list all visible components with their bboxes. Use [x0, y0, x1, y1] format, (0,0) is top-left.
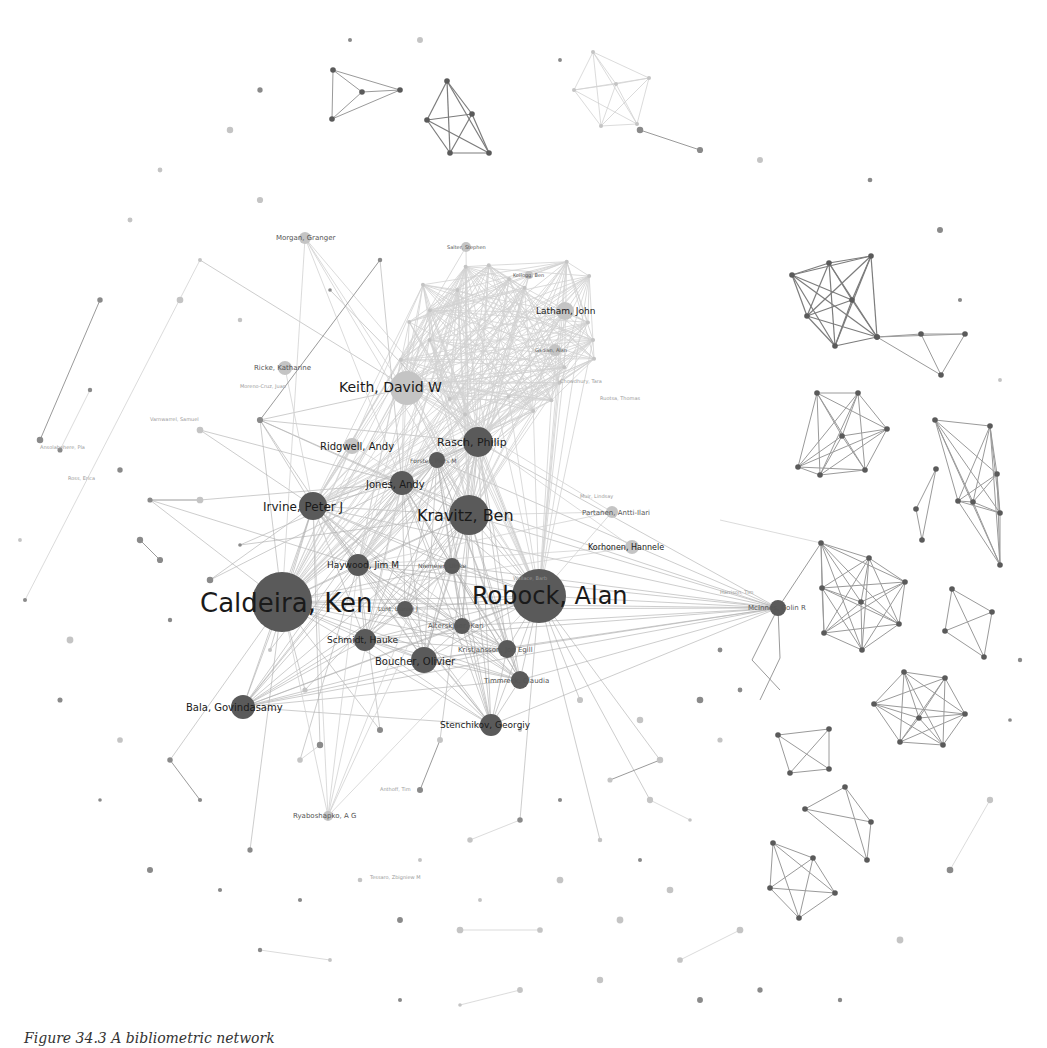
clique-node [940, 742, 946, 748]
edge [574, 52, 593, 90]
clique-node [802, 806, 808, 812]
scatter-node [838, 998, 842, 1002]
clique-node [817, 472, 823, 478]
scatter-node [998, 378, 1002, 382]
scatter-node [418, 858, 422, 862]
edge [865, 429, 887, 470]
labels-layer: Caldeira, KenRobock, AlanKravitz, BenKei… [40, 234, 806, 881]
clique-node [842, 784, 848, 790]
label-mcinnes: McInnes, Colin R [748, 604, 806, 612]
edge [862, 558, 869, 650]
edge [822, 558, 869, 588]
label-rasch: Rasch, Philip [437, 436, 507, 449]
cluster-node [399, 358, 403, 362]
figure-caption: Figure 34.3 A bibliometric network [24, 1030, 275, 1046]
scatter-node [268, 648, 272, 652]
label-egill3: Lunt, Daniel J [378, 605, 418, 613]
label-kristjansson: Kristjansson, Jon Egill [458, 646, 533, 654]
edge [466, 265, 489, 266]
clique-node [647, 76, 651, 80]
edge [200, 430, 313, 506]
scatter-node [558, 58, 562, 62]
edge [593, 52, 616, 84]
scatter-node [238, 318, 243, 323]
minor-author-label: Varnwarrel, Samuel [150, 416, 199, 422]
minor-author-label: Ross, Erica [68, 475, 95, 481]
clique-node [884, 426, 890, 432]
edge [770, 888, 799, 918]
edge [935, 420, 958, 501]
clique-node [819, 585, 825, 591]
edge [952, 589, 992, 612]
label-ryaboshapko: Ryaboshapko, A G [293, 812, 356, 820]
edge [935, 420, 990, 426]
scatter-node [467, 837, 472, 842]
minor-author-label: Tessaro, Zbigniew M [369, 874, 421, 881]
clique-node [862, 467, 868, 473]
clique-node [821, 630, 827, 636]
edge [773, 843, 835, 893]
edge [420, 740, 440, 790]
edge [899, 582, 905, 624]
scatter-node [478, 898, 482, 902]
edge [491, 608, 778, 725]
scatter-node [298, 898, 302, 902]
edge [922, 469, 936, 540]
clique-node [902, 579, 908, 585]
scatter-node [238, 543, 242, 547]
scatter-node [697, 997, 703, 1003]
scatter-node [607, 777, 612, 782]
clique-node [896, 621, 902, 627]
scatter-node [958, 298, 962, 302]
scatter-node [697, 697, 704, 704]
label-alterskjaer: Alterskjaer, Kari [428, 622, 484, 630]
edge [170, 760, 200, 800]
clique-node [787, 770, 793, 776]
minor-author-label: Wallace, Barb [513, 575, 547, 581]
edge [790, 769, 829, 773]
label-korhonen: Korhonen, Hannele [588, 543, 664, 552]
edge [250, 602, 282, 850]
scatter-node [23, 598, 27, 602]
edge [941, 334, 965, 375]
scatter-node [377, 727, 383, 733]
clique-node [970, 499, 976, 505]
edge [874, 704, 900, 742]
scatter-node [137, 537, 143, 543]
clique-node [832, 343, 838, 349]
scatter-node [302, 687, 307, 692]
scatter-node [207, 577, 214, 584]
scatter-node [297, 757, 303, 763]
cluster-node [487, 263, 491, 267]
scatter-node [537, 927, 543, 933]
edge [835, 337, 877, 346]
edge [520, 608, 778, 680]
scatter-node [1008, 718, 1012, 722]
scatter-node [688, 818, 692, 822]
label-niemeier: Niemeier, Ulrike [418, 562, 466, 569]
clique-node [864, 857, 870, 863]
clique-node [789, 272, 795, 278]
clique-node [997, 562, 1003, 568]
edge [447, 81, 472, 114]
clique-node [859, 647, 865, 653]
clique-node [635, 122, 639, 126]
edge [813, 858, 835, 893]
scatter-node [197, 497, 204, 504]
edge [817, 393, 820, 475]
edge [427, 114, 472, 120]
edge [852, 300, 877, 337]
edge [770, 843, 773, 888]
scatter-node [317, 742, 323, 748]
clique-node [981, 654, 987, 660]
cluster-node [455, 288, 459, 292]
edge [427, 81, 447, 120]
clique-node [933, 466, 939, 472]
edge [300, 745, 320, 760]
scatter-node [897, 937, 904, 944]
clique-node [614, 82, 618, 86]
label-keith: Keith, David W [339, 379, 442, 395]
label-irvine: Irvine, Peter J [263, 500, 343, 514]
label-bala: Bala, Govindasamy [186, 702, 283, 713]
edge [427, 120, 450, 153]
